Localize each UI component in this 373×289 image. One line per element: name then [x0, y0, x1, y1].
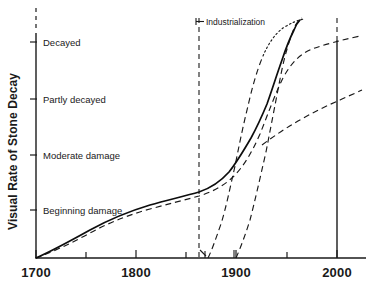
curve-early-onset-dotted — [263, 19, 304, 56]
stone-decay-chart: Visual Rate of Stone Decay Decayed Partl… — [0, 0, 373, 289]
y-label-partly-decayed: Partly decayed — [43, 94, 106, 105]
x-label-1900: 1900 — [221, 265, 251, 280]
chart-canvas: Visual Rate of Stone Decay Decayed Partl… — [0, 0, 373, 289]
y-label-beginning-damage: Beginning damage — [43, 205, 122, 216]
curve-late-onset-dashed — [236, 18, 302, 258]
curve-lower-projection-dashed — [262, 90, 362, 145]
curve-early-onset-dashed — [208, 56, 263, 258]
y-label-moderate-damage: Moderate damage — [43, 150, 120, 161]
x-label-1800: 1800 — [121, 265, 151, 280]
x-label-2000: 2000 — [322, 265, 352, 280]
y-axis-title: Visual Rate of Stone Decay — [6, 73, 20, 230]
x-label-1700: 1700 — [21, 265, 51, 280]
curve-baseline-weathering-dashed — [36, 36, 360, 258]
curve-observed-decay-solid — [36, 20, 300, 258]
y-label-decayed: Decayed — [43, 37, 81, 48]
industrialization-label: Industrialization — [206, 17, 265, 27]
